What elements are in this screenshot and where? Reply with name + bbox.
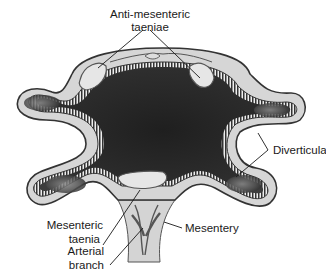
colon-diverticula-diagram: Anti-mesenteric taeniae Diverticula Mese… (0, 0, 326, 275)
label-mesentery: Mesentery (185, 222, 239, 234)
label-mesenteric-taenia-line2: taenia (69, 233, 101, 245)
label-anti-mesenteric-taeniae-line1: Anti-mesenteric (110, 8, 190, 20)
label-mesenteric-taenia-line1: Mesenteric (47, 219, 103, 231)
label-anti-mesenteric-taeniae-line2: taeniae (131, 21, 169, 33)
mesenteric-taenia (118, 171, 167, 188)
label-arterial-branch-line1: Arterial (68, 245, 104, 257)
label-diverticula: Diverticula (273, 144, 326, 156)
label-arterial-branch-line2: branch (69, 259, 104, 271)
